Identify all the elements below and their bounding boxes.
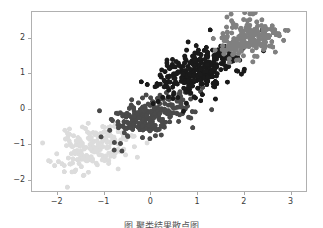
x-tick-label: 0	[148, 198, 153, 206]
y-tick-label: −2	[3, 176, 25, 184]
x-tick-mark	[244, 192, 245, 195]
x-tick-mark	[291, 192, 292, 195]
figure-caption: 图 聚类结果散点图	[0, 221, 323, 228]
plot-area	[31, 11, 307, 192]
scatter-points-canvas	[32, 12, 306, 191]
y-tick-mark	[28, 180, 31, 181]
y-tick-mark	[28, 73, 31, 74]
scatter-figure: 图 聚类结果散点图 −2−10123−2−1012	[0, 0, 323, 228]
y-tick-label: 2	[3, 34, 25, 42]
x-tick-label: 3	[288, 198, 293, 206]
y-tick-label: 1	[3, 69, 25, 77]
x-tick-label: −2	[51, 198, 63, 206]
y-tick-label: −1	[3, 140, 25, 148]
x-tick-label: −1	[98, 198, 110, 206]
y-tick-label: 0	[3, 105, 25, 113]
x-tick-mark	[104, 192, 105, 195]
x-tick-mark	[150, 192, 151, 195]
x-tick-mark	[197, 192, 198, 195]
x-tick-mark	[57, 192, 58, 195]
y-tick-mark	[28, 109, 31, 110]
y-tick-mark	[28, 38, 31, 39]
x-tick-label: 2	[241, 198, 246, 206]
y-tick-mark	[28, 144, 31, 145]
x-tick-label: 1	[195, 198, 200, 206]
